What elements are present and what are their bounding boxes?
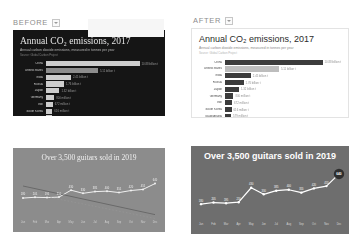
guitar-point-label: 355 — [299, 187, 304, 191]
guitar-x-tick-label: Mar — [224, 222, 229, 226]
bar-category-label: Iran — [199, 101, 225, 104]
guitar-point-label: 195 — [224, 198, 229, 202]
guitar-point-label: 455 — [141, 184, 146, 188]
guitar-x-tick-label: Sep — [117, 220, 122, 224]
guitar-trend-line — [201, 174, 339, 204]
bar-fill — [225, 73, 251, 78]
bar-fill — [46, 109, 52, 114]
guitar-point-label: 195 — [45, 192, 50, 196]
guitar-trend-line — [23, 184, 155, 198]
guitar-x-tick-label: Aug — [105, 220, 110, 224]
bar-category-label: India — [20, 76, 46, 79]
bar-row: United States5.11 billion t — [199, 66, 341, 71]
guitar-x-tick-label: Jul — [275, 222, 279, 226]
column-label-after: AFTER — [193, 16, 221, 25]
guitar-chart-before: Over 3,500 guitars sold in 2019 18020519… — [13, 148, 165, 232]
bar-category-label: Iran — [20, 103, 46, 106]
bar-row: Iran672 million t — [20, 102, 158, 107]
guitar-x-tick-label: Nov — [324, 222, 329, 226]
guitar-point-label: 355 — [117, 187, 122, 191]
bar-row: India2.45 billion t — [20, 75, 158, 80]
guitar-data-point — [94, 191, 96, 193]
bar-value-label: 672 million t — [234, 101, 249, 105]
guitar-point-label: 420 — [129, 185, 134, 189]
co2-bars-after: China10.88 billion tUnited States5.11 bi… — [199, 59, 341, 118]
bar-category-label: Russia — [199, 81, 225, 84]
bar-row: South Korea616 million t — [199, 107, 341, 112]
guitar-point-label: 400 — [105, 186, 110, 190]
card-guitar-before[interactable]: Over 3,500 guitars sold in 2019 18020519… — [13, 148, 165, 232]
bar-track: 616 million t — [46, 109, 158, 114]
bar-track: 1.76 billion t — [225, 80, 341, 85]
bar-fill — [225, 100, 232, 105]
guitar-end-label: 640 — [336, 172, 342, 176]
bar-track: 1.76 billion t — [46, 81, 158, 86]
chevron-down-icon[interactable] — [225, 17, 233, 25]
guitar-data-point — [313, 187, 315, 189]
bar-value-label: 1.32 billion t — [241, 87, 256, 91]
bar-value-label: 1.76 billion t — [66, 82, 81, 86]
bar-value-label: 10.88 billion t — [325, 60, 341, 64]
co2-bars-before: China10.88 billion tUnited States5.11 bi… — [20, 61, 158, 116]
bar-value-label: 800 million t — [56, 96, 71, 100]
bar-row: Russia1.76 billion t — [20, 81, 158, 86]
guitar-x-tick-label: Jun — [262, 222, 267, 226]
card-co2-after[interactable]: Annual CO₂ emissions, 2017 Annual carbon… — [191, 28, 349, 118]
guitar-data-point — [130, 190, 132, 192]
guitar-data-point — [58, 196, 60, 198]
guitar-point-label: 330 — [81, 188, 86, 192]
bar-track: 579 million t — [225, 114, 341, 118]
guitar-data-point — [263, 193, 265, 195]
bar-fill — [225, 80, 244, 85]
guitar-point-label: 385 — [93, 186, 98, 190]
guitar-x-tick-label: Jan — [199, 222, 204, 226]
guitar-data-point — [288, 189, 290, 191]
co2-subtitle-after: Annual carbon dioxide emissions, measure… — [199, 46, 341, 51]
card-co2-before[interactable]: Annual CO₂ emissions, 2017 Annual carbon… — [13, 30, 165, 116]
bar-track: 672 million t — [225, 100, 341, 105]
bar-fill — [46, 88, 59, 93]
bar-fill — [46, 68, 98, 73]
bar-category-label: India — [199, 74, 225, 77]
guitar-x-tick-label: Jul — [93, 220, 97, 224]
bar-value-label: 1.32 billion t — [61, 89, 76, 93]
column-header-after[interactable]: AFTER — [193, 16, 233, 25]
bar-fill — [225, 107, 232, 112]
co2-title-before: Annual CO₂ emissions, 2017 — [20, 36, 158, 46]
bar-row: South Korea616 million t — [20, 109, 158, 114]
co2-source-after: Source: Global Carbon Project — [199, 51, 341, 55]
bar-row: Germany800 million t — [20, 95, 158, 100]
co2-chart-light: Annual CO₂ emissions, 2017 Annual carbon… — [192, 29, 348, 117]
guitar-x-tick-label: Sep — [299, 222, 304, 226]
column-label-before: BEFORE — [13, 18, 48, 27]
bar-category-label: United States — [20, 69, 46, 72]
bar-fill — [225, 66, 279, 71]
guitar-data-point — [325, 185, 327, 187]
bar-track: 5.11 billion t — [225, 66, 341, 71]
guitar-point-label: 455 — [324, 181, 329, 185]
chevron-down-icon[interactable] — [52, 19, 60, 27]
guitar-point-label: 205 — [33, 192, 38, 196]
guitar-x-tick-label: Apr — [237, 222, 241, 226]
bar-category-label: South Korea — [20, 110, 46, 113]
bar-value-label: 10.88 billion t — [142, 62, 158, 66]
guitar-x-tick-label: Mar — [45, 220, 50, 224]
guitar-data-point — [300, 191, 302, 193]
bar-category-label: Japan — [20, 89, 46, 92]
guitar-point-label: 640 — [153, 178, 158, 182]
bar-value-label: 2.45 billion t — [73, 75, 88, 79]
bar-value-label: 1.76 billion t — [246, 81, 261, 85]
guitar-data-point — [34, 196, 36, 198]
bar-fill — [46, 81, 64, 86]
guitar-x-tick-label: Oct — [312, 222, 316, 226]
bar-track: 5.11 billion t — [46, 68, 158, 73]
guitar-data-point — [22, 197, 24, 199]
bar-track: 579 million t — [46, 115, 158, 116]
guitar-data-point — [154, 183, 156, 185]
guitar-x-tick-label: Feb — [211, 222, 216, 226]
bar-value-label: 616 million t — [234, 108, 249, 112]
card-guitar-after[interactable]: Over 3,500 guitars sold in 2019 18020519… — [191, 146, 349, 234]
column-header-before[interactable]: BEFORE — [13, 18, 60, 27]
guitar-data-point — [106, 190, 108, 192]
bar-category-label: Saudi Arabia — [199, 115, 225, 118]
